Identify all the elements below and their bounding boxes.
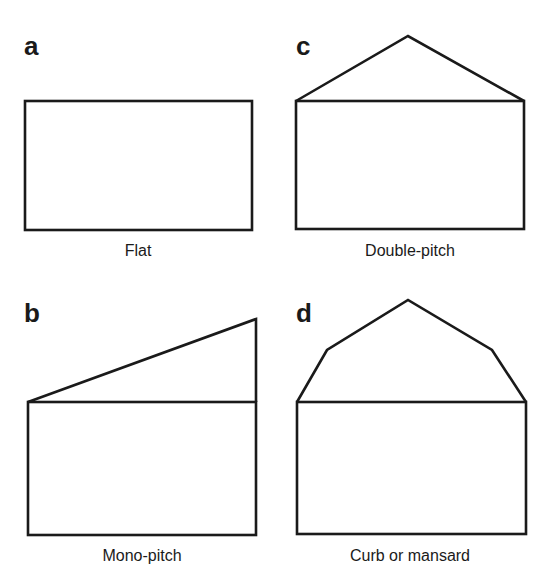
panel-label-d: d <box>296 300 312 326</box>
panel-label-a: a <box>24 33 38 59</box>
mono-pitch-roof <box>28 319 256 402</box>
caption-curb-or-mansard: Curb or mansard <box>290 548 530 564</box>
double-pitch-building-body <box>296 101 524 229</box>
panel-label-b: b <box>24 300 40 326</box>
caption-mono-pitch: Mono-pitch <box>22 548 262 564</box>
mansard-building-body <box>297 402 526 534</box>
double-pitch-roof <box>296 36 524 101</box>
caption-flat: Flat <box>18 243 258 259</box>
flat-roof-building <box>25 101 252 230</box>
caption-double-pitch: Double-pitch <box>290 243 530 259</box>
panel-label-c: c <box>296 33 310 59</box>
roof-types-diagram <box>0 0 547 578</box>
mono-pitch-building-body <box>28 402 256 535</box>
mansard-roof <box>297 300 526 402</box>
